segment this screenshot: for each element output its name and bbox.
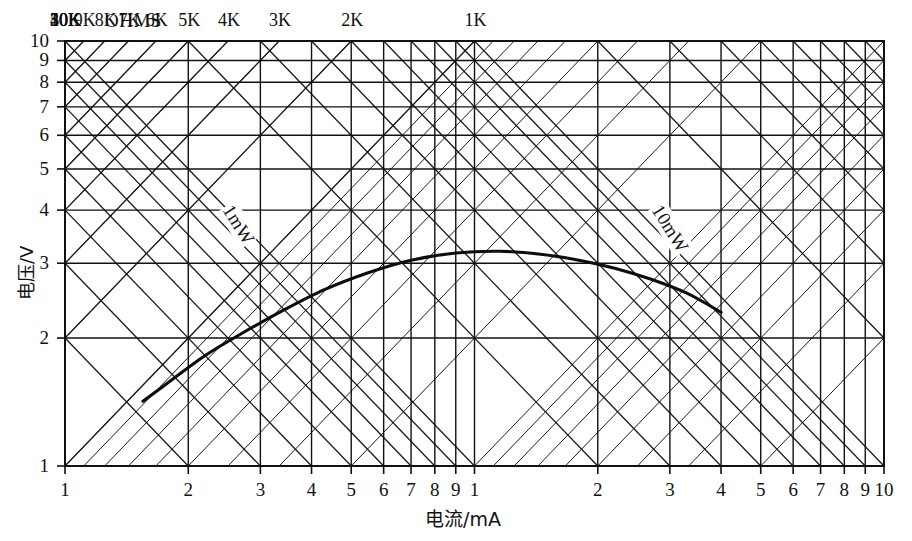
x-tick-label: 4 [299,480,325,499]
resistance-label-2k: 2K [341,11,363,29]
x-tick-label: 6 [371,480,397,499]
x-tick-label: 3 [247,480,273,499]
x-tick-label: 7 [808,480,834,499]
x-tick-label: 10 [871,480,897,499]
y-tick-label: 10 [23,31,49,50]
y-tick-label: 4 [23,200,49,219]
y-tick-label: 1 [23,456,49,475]
x-tick-label: 2 [585,480,611,499]
resistance-label-9k: 9K [74,11,96,29]
y-tick-label: 9 [23,50,49,69]
x-tick-label: 5 [748,480,774,499]
y-axis-title: 电压/V [18,246,36,300]
axis-ticks [57,41,884,474]
resistance-label-4k: 4K [218,11,240,29]
x-axis-title: 电流/mA [425,510,501,529]
resistance-label-3k: 3K [269,11,291,29]
x-tick-label: 1 [462,480,488,499]
grid-major-lines [65,41,884,466]
x-tick-label: 3 [657,480,683,499]
y-tick-label: 5 [23,159,49,178]
resistance-label-6k: 6K [146,11,168,29]
resistance-label-5k: 5K [178,11,200,29]
y-tick-label: 6 [23,125,49,144]
x-tick-label: 7 [398,480,424,499]
x-tick-label: 1 [52,480,78,499]
resistance-label-8k: 8K [95,11,117,29]
data-curve [143,251,721,401]
x-tick-label: 5 [338,480,364,499]
x-tick-label: 6 [780,480,806,499]
y-tick-label: 7 [23,97,49,116]
y-tick-label: 2 [23,328,49,347]
y-tick-label: 8 [23,72,49,91]
resistance-label-7k: 7K [118,11,140,29]
nomograph-chart: OHMS 50K40K30K20K10K9K8K7K6K5K4K3K2K1K 1… [0,0,912,541]
x-tick-label: 4 [708,480,734,499]
nomograph-svg [0,0,912,541]
resistance-label-1k: 1K [465,11,487,29]
x-tick-label: 2 [175,480,201,499]
